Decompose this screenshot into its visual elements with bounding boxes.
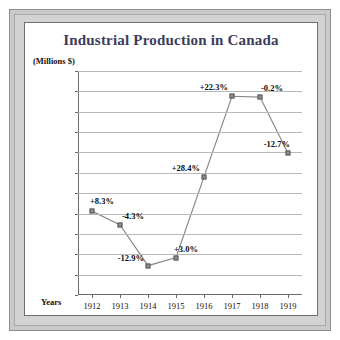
y-tick-mark [75, 173, 78, 174]
y-tick-mark [75, 152, 78, 153]
data-point-marker [90, 209, 95, 214]
gridline [78, 152, 302, 153]
gridline [78, 132, 302, 133]
data-point-label: -12.7% [264, 139, 290, 149]
y-tick-mark [75, 275, 78, 276]
gridline [78, 112, 302, 113]
data-point-marker [230, 94, 235, 99]
data-point-label: -4.3% [122, 211, 144, 221]
gridline [78, 254, 302, 255]
y-tick-mark [75, 71, 78, 72]
y-tick-mark [75, 112, 78, 113]
gridline [78, 71, 302, 72]
x-tick-mark [92, 295, 93, 298]
gridline [78, 234, 302, 235]
y-tick-mark [75, 214, 78, 215]
chart-card: Industrial Production in Canada (Million… [24, 22, 318, 316]
plot-wrapper: 575 000550 000525 000500 000475 000450 0… [25, 23, 318, 316]
y-tick-mark [75, 193, 78, 194]
gridline [78, 193, 302, 194]
data-point-marker [258, 95, 263, 100]
y-tick-mark [75, 234, 78, 235]
x-tick-label: 1916 [196, 301, 213, 311]
x-tick-label: 1912 [84, 301, 101, 311]
x-tick-mark [120, 295, 121, 298]
x-tick-label: 1918 [252, 301, 269, 311]
data-point-marker [174, 255, 179, 260]
data-point-marker [202, 174, 207, 179]
data-point-label: +3.0% [174, 244, 198, 254]
data-point-label: -0.2% [261, 83, 283, 93]
x-tick-mark [204, 295, 205, 298]
x-tick-mark [232, 295, 233, 298]
x-tick-mark [148, 295, 149, 298]
x-tick-label: 1914 [140, 301, 157, 311]
y-tick-mark [75, 91, 78, 92]
x-tick-mark [176, 295, 177, 298]
x-tick-label: 1919 [280, 301, 297, 311]
y-tick-mark [75, 295, 78, 296]
x-tick-label: 1913 [112, 301, 129, 311]
chart-screenshot: Industrial Production in Canada (Million… [0, 0, 340, 340]
x-tick-label: 1917 [224, 301, 241, 311]
data-point-label: +22.3% [200, 82, 228, 92]
gridline [78, 214, 302, 215]
data-point-marker [286, 151, 291, 156]
y-tick-mark [75, 254, 78, 255]
gridline [78, 275, 302, 276]
data-point-label: -12.9% [118, 253, 144, 263]
x-tick-mark [288, 295, 289, 298]
series-line [78, 71, 302, 295]
x-tick-mark [260, 295, 261, 298]
x-tick-label: 1915 [168, 301, 185, 311]
y-tick-mark [75, 132, 78, 133]
data-point-marker [118, 222, 123, 227]
plot-area: 575 000550 000525 000500 000475 000450 0… [78, 71, 302, 295]
data-point-marker [146, 263, 151, 268]
data-point-label: +28.4% [172, 163, 200, 173]
gridline [78, 173, 302, 174]
data-point-label: +8.3% [90, 196, 114, 206]
